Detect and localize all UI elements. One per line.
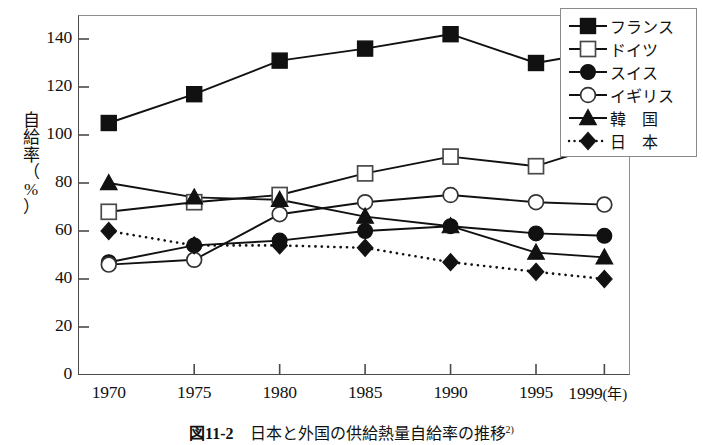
x-tick-label: 1985 <box>325 382 405 403</box>
legend-item-スイス[interactable]: スイス <box>566 60 692 83</box>
legend-symbol <box>580 132 596 149</box>
legend-symbol <box>580 109 597 124</box>
data-point-フランス-1985 <box>358 41 373 56</box>
legend-item-イギリス[interactable]: イギリス <box>566 83 692 106</box>
legend: フランスドイツスイスイギリス韓 国日 本 <box>560 8 697 157</box>
legend-label: イギリス <box>610 83 674 107</box>
data-point-日 本-1970 <box>101 222 117 239</box>
data-point-ドイツ-1990 <box>443 149 458 164</box>
data-point-フランス-1975 <box>187 87 202 102</box>
marker-open-circle <box>101 257 116 272</box>
data-point-日 本-1985 <box>357 239 373 256</box>
legend-symbol <box>581 64 596 79</box>
x-axis-ticks: 1970197519801985199019951999(年) <box>0 382 703 408</box>
marker-filled-triangle <box>580 109 597 124</box>
marker-filled-circle <box>529 226 544 241</box>
data-point-フランス-1980 <box>272 53 287 68</box>
marker-filled-diamond <box>528 263 544 280</box>
data-point-日 本-1975 <box>186 237 202 254</box>
marker-filled-square <box>272 53 287 68</box>
x-tick-label: 1995 <box>496 382 576 403</box>
y-tick-label: 120 <box>46 75 72 96</box>
legend-marker-filled-diamond <box>566 131 610 151</box>
legend-symbol <box>581 18 596 33</box>
caption-text: 日本と外国の供給熱量自給率の推移 <box>250 425 506 442</box>
x-tick-label: 1980 <box>240 382 320 403</box>
legend-marker-filled-circle <box>566 62 610 82</box>
legend-label: 日 本 <box>610 129 658 153</box>
marker-open-circle <box>581 87 596 102</box>
marker-open-circle <box>529 195 544 210</box>
caption-gap <box>238 425 246 442</box>
data-point-フランス-1995 <box>529 56 544 71</box>
data-point-日 本-1999 <box>597 270 613 287</box>
series-line-韓 国 <box>109 183 605 257</box>
legend-label: ドイツ <box>610 37 658 61</box>
legend-item-韓国[interactable]: 韓 国 <box>566 106 692 129</box>
marker-open-circle <box>443 188 458 203</box>
data-point-イギリス-1970 <box>101 257 116 272</box>
figure-caption: 図11-2 日本と外国の供給熱量自給率の推移2) <box>0 420 703 444</box>
legend-item-フランス[interactable]: フランス <box>566 14 692 37</box>
y-tick-label: 100 <box>46 123 72 144</box>
marker-filled-square <box>358 41 373 56</box>
y-tick-label: 20 <box>55 315 72 336</box>
marker-filled-square <box>581 18 596 33</box>
legend-symbol <box>581 87 596 102</box>
legend-marker-filled-triangle <box>566 108 610 128</box>
marker-filled-triangle <box>100 174 117 189</box>
caption-number: 図11-2 <box>189 425 233 442</box>
legend-item-日本[interactable]: 日 本 <box>566 129 692 152</box>
legend-label: 韓 国 <box>610 106 658 130</box>
series-line-フランス <box>109 34 605 123</box>
data-point-ドイツ-1985 <box>358 166 373 181</box>
marker-filled-square <box>187 87 202 102</box>
marker-open-square <box>443 149 458 164</box>
data-point-ドイツ-1995 <box>529 159 544 174</box>
data-point-フランス-1970 <box>101 116 116 131</box>
data-point-ドイツ-1970 <box>101 204 116 219</box>
marker-filled-diamond <box>443 254 459 271</box>
data-point-スイス-1985 <box>358 224 373 239</box>
legend-marker-open-circle <box>566 85 610 105</box>
series-canvas <box>78 15 630 375</box>
data-point-イギリス-1980 <box>272 207 287 222</box>
marker-filled-diamond <box>597 270 613 287</box>
data-point-韓 国-1970 <box>100 174 117 189</box>
legend-marker-open-square <box>566 39 610 59</box>
marker-open-square <box>581 41 596 56</box>
chart-figure: 自 給 率 （ % ） 020406080100120140 197019751… <box>0 0 703 445</box>
x-tick-label: 1999(年) <box>568 382 678 404</box>
y-axis-ticks: 020406080100120140 <box>0 0 72 445</box>
legend-symbol <box>581 41 596 56</box>
marker-open-circle <box>272 207 287 222</box>
x-tick-label: 1970 <box>69 382 149 403</box>
legend-label: フランス <box>610 14 674 38</box>
legend-marker-filled-square <box>566 16 610 36</box>
data-point-イギリス-1990 <box>443 188 458 203</box>
data-point-スイス-1995 <box>529 226 544 241</box>
y-tick-label: 140 <box>46 27 72 48</box>
marker-filled-square <box>529 56 544 71</box>
x-tick-label: 1990 <box>411 382 491 403</box>
plot-area <box>78 15 630 375</box>
marker-filled-diamond <box>186 237 202 254</box>
marker-filled-circle <box>597 228 612 243</box>
x-axis-unit: (年) <box>603 386 627 402</box>
marker-open-square <box>358 166 373 181</box>
marker-filled-square <box>443 27 458 42</box>
marker-filled-diamond <box>101 222 117 239</box>
caption-superscript: 2) <box>506 424 514 435</box>
data-point-日 本-1990 <box>443 254 459 271</box>
y-tick-label: 0 <box>63 363 72 384</box>
x-tick-year: 1999 <box>568 383 602 403</box>
marker-filled-square <box>101 116 116 131</box>
data-point-フランス-1990 <box>443 27 458 42</box>
x-tick-label: 1975 <box>154 382 234 403</box>
marker-open-square <box>529 159 544 174</box>
data-point-イギリス-1995 <box>529 195 544 210</box>
data-point-スイス-1999 <box>597 228 612 243</box>
legend-item-ドイツ[interactable]: ドイツ <box>566 37 692 60</box>
marker-open-circle <box>597 197 612 212</box>
y-tick-label: 40 <box>55 267 72 288</box>
